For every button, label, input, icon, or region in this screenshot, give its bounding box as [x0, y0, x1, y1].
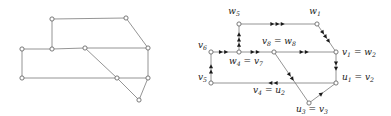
- edge-direction-arrow: [219, 50, 223, 54]
- edge-direction-arrow: [251, 50, 255, 54]
- node-label-v5: v5: [198, 72, 207, 83]
- edge-direction-arrow: [334, 62, 338, 66]
- node-label-u3v3: u3 = v3: [296, 104, 328, 115]
- edge-direction-arrow: [281, 22, 285, 26]
- edge-direction-arrow: [270, 22, 274, 26]
- edge-direction-arrow: [305, 50, 309, 54]
- graph-node: [124, 16, 128, 20]
- graph-node: [334, 81, 338, 85]
- graph-node: [209, 81, 213, 85]
- node-label-w5: w5: [228, 6, 240, 17]
- left-graph-nodes: [20, 16, 150, 102]
- edge-direction-arrow: [256, 50, 260, 54]
- edge-direction-arrow: [209, 69, 213, 73]
- left-graph-svg: [0, 0, 196, 116]
- node-label-v1w2: v1 = w2: [342, 47, 376, 58]
- left-graph-edges: [22, 18, 148, 100]
- figure-canvas: w5w1v6w4 = v7v8 = w8v1 = w2v5u1 = v2u3 =…: [0, 0, 391, 116]
- node-label-w1: w1: [309, 6, 321, 17]
- node-label-w4v7: w4 = v7: [229, 56, 263, 67]
- graph-node: [334, 50, 338, 54]
- graph-node: [272, 50, 276, 54]
- node-label-v6: v6: [198, 40, 207, 51]
- edge-direction-arrow: [209, 64, 213, 68]
- graph-node: [146, 46, 150, 50]
- graph-edge: [52, 18, 126, 19]
- graph-node: [20, 76, 24, 80]
- edge-direction-arrow: [320, 30, 326, 36]
- graph-node: [50, 17, 54, 21]
- edge-direction-arrow: [237, 43, 241, 47]
- graph-node: [146, 76, 150, 80]
- left-panel: [0, 0, 196, 116]
- right-graph-svg: w5w1v6w4 = v7v8 = w8v1 = w2v5u1 = v2u3 =…: [196, 0, 391, 116]
- edge-label-v4u2: v4 = u2: [253, 85, 285, 96]
- right-graph-labels: w5w1v6w4 = v7v8 = w8v1 = w2v5u1 = v2u3 =…: [198, 6, 376, 115]
- graph-edge: [126, 18, 148, 48]
- graph-node: [20, 47, 24, 51]
- graph-node: [209, 50, 213, 54]
- graph-node: [315, 22, 319, 26]
- edge-direction-arrow: [323, 34, 329, 40]
- right-panel: w5w1v6w4 = v7v8 = w8v1 = w2v5u1 = v2u3 =…: [196, 0, 391, 116]
- graph-node: [115, 76, 119, 80]
- graph-node: [50, 47, 54, 51]
- node-label-u1v2: u1 = v2: [342, 72, 374, 83]
- edge-direction-arrow: [276, 22, 280, 26]
- node-label-v8w8: v8 = w8: [262, 36, 296, 47]
- edge-direction-arrow: [237, 32, 241, 36]
- edge-direction-arrow: [334, 67, 338, 71]
- graph-edge: [139, 78, 148, 100]
- graph-node: [237, 22, 241, 26]
- edge-direction-arrow: [224, 50, 228, 54]
- edge-direction-arrow: [290, 76, 296, 82]
- edge-direction-arrow: [237, 37, 241, 41]
- edge-direction-arrow: [300, 50, 304, 54]
- graph-edge: [117, 78, 139, 100]
- graph-node: [137, 98, 141, 102]
- edge-direction-arrow: [287, 72, 293, 78]
- graph-edge: [85, 48, 117, 78]
- graph-node: [83, 46, 87, 50]
- edge-direction-arrow: [326, 38, 332, 44]
- edge-direction-arrow: [319, 91, 325, 97]
- graph-node: [237, 50, 241, 54]
- graph-edge: [52, 48, 85, 49]
